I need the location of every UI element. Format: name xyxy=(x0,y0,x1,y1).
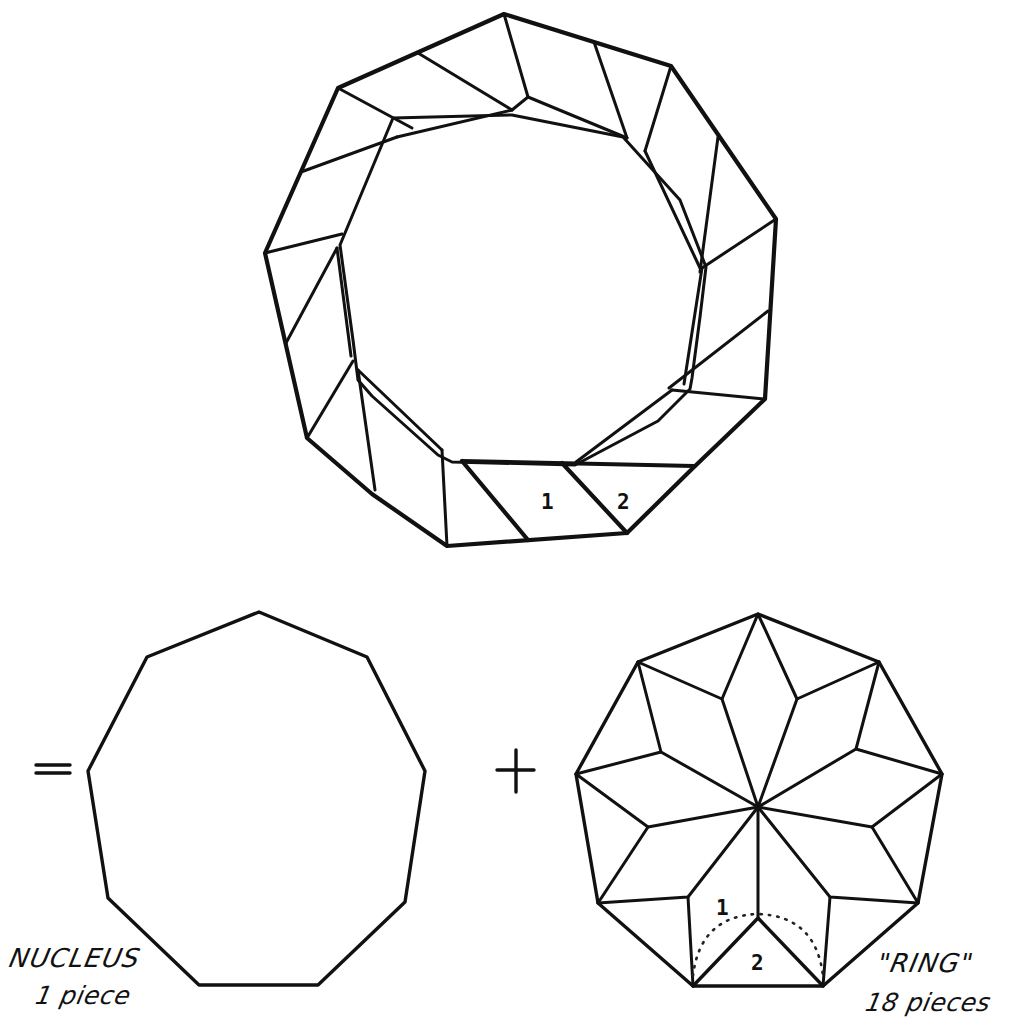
top-ring-piece-1-label: 1 xyxy=(541,490,554,514)
diagram-canvas: 1 2 xyxy=(0,0,1017,1029)
ring-piece-1-label: 1 xyxy=(716,896,729,920)
ring-star-figure: 1 2 xyxy=(576,614,942,986)
plus-sign-icon xyxy=(497,750,534,792)
ring-count: 18 pieces xyxy=(863,990,993,1015)
top-ring-figure: 1 2 xyxy=(265,14,776,546)
top-ring-piece-2-label: 2 xyxy=(617,490,630,514)
nucleus-label: NUCLEUS xyxy=(7,945,143,971)
equals-sign-icon xyxy=(36,765,70,773)
ring-label: "RING" xyxy=(875,950,976,976)
nucleus-count: 1 piece xyxy=(33,983,133,1008)
nucleus-nonagon xyxy=(88,612,425,985)
ring-piece-2-label: 2 xyxy=(751,951,764,975)
